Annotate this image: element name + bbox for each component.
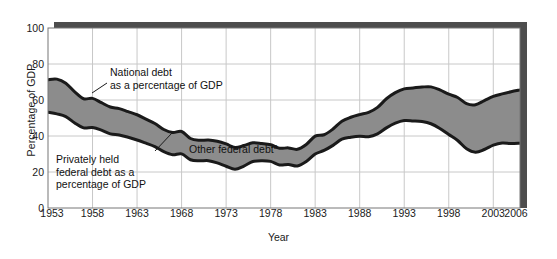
x-tick-label: 1978 xyxy=(259,207,282,219)
x-tick-label: 2006 xyxy=(504,207,527,219)
x-axis-title: Year xyxy=(0,231,557,243)
x-tick-label: 1973 xyxy=(214,207,237,219)
x-axis-tick-labels: 1953195819631968197319781983198819931998… xyxy=(0,207,557,223)
annotation-other-federal-debt: Other federal debta xyxy=(189,143,278,156)
annotation-national-debt: National debt as a percentage of GDP xyxy=(110,66,223,91)
x-tick-label: 1983 xyxy=(303,207,326,219)
x-tick-label: 1953 xyxy=(40,207,63,219)
x-tick-label: 1988 xyxy=(348,207,371,219)
x-tick-label: 1998 xyxy=(437,207,460,219)
x-tick-label: 2003 xyxy=(482,207,505,219)
chart-figure: Percentage of GDP 020406080100 195319581… xyxy=(0,0,557,259)
x-tick-label: 1993 xyxy=(393,207,416,219)
annotation-privately-held-debt: Privately held federal debt as a percent… xyxy=(56,153,146,191)
annotation-other-federal-debt-superscript: a xyxy=(274,143,278,150)
shadow-right-bar xyxy=(520,22,527,208)
x-tick-label: 1963 xyxy=(125,207,148,219)
x-tick-label: 1958 xyxy=(81,207,104,219)
x-tick-label: 1968 xyxy=(170,207,193,219)
annotation-other-federal-debt-text: Other federal debt xyxy=(189,143,274,155)
